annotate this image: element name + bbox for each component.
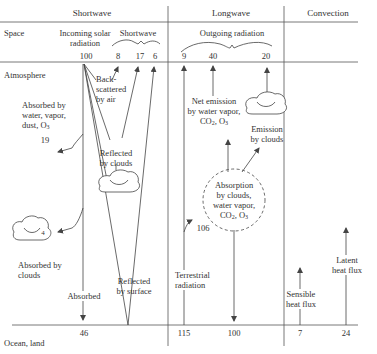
lw-out-surface-value: 9 [179,51,189,61]
surface-emitted-value: 115 [175,328,193,338]
absorbed-clouds-arrow [58,208,83,232]
reflected-surface-value: 6 [150,51,160,61]
backscatter-value: 8 [113,51,123,61]
section-convection: Convection [296,8,360,18]
terrestrial-label: Terrestrial radiation [175,270,210,290]
absorbed-wv-arrow [58,134,83,152]
latent-heat-value: 24 [338,328,354,338]
absorbed-terrestrial-arrow [184,220,192,232]
reflected-surface-label: Reflected by surface [112,276,156,296]
net-emission-label: Net emission by water vapor, CO2, O3 [186,96,242,128]
absorption-to-cloud-arrow [242,148,259,172]
section-longwave: Longwave [196,8,266,18]
longwave-cloud-icon [246,92,287,114]
sensible-heat-value: 7 [294,328,306,338]
absorbed-label: Absorbed [64,291,104,301]
row-space: Space [4,28,24,38]
absorbed-wv-value: 19 [38,135,52,145]
incoming-solar-label: Incoming solar radiation [52,28,118,48]
shortwave-outgoing-label: Shortwave [114,28,162,38]
shortwave-outgoing-brace [112,40,160,46]
absorbed-clouds-value: 4 [38,228,48,238]
absorbed-surface-value: 46 [76,328,92,338]
incoming-value: 100 [76,51,96,61]
absorbed-wv-label: Absorbed by water, vapor, dust, O3 [22,100,66,132]
absorbed-clouds-label: Absorbed by clouds [18,260,62,280]
emission-clouds-label: Emission by clouds [246,124,288,144]
lw-out-clouds-value: 20 [259,51,273,61]
reflected-clouds-value: 17 [134,51,146,61]
latent-heat-label: Latent heat flux [330,255,364,275]
sensible-heat-label: Sensible heat flux [285,289,317,309]
back-radiation-value: 100 [225,328,243,338]
earth-energy-budget-diagram: Shortwave Longwave Convection Space Atmo… [0,0,377,354]
row-surface: Ocean, land [4,338,45,348]
reflected-clouds-label: Reflected by clouds [94,148,138,168]
outgoing-radiation-label: Outgoing radiation [192,28,272,38]
row-atmosphere: Atmosphere [4,70,46,80]
lw-out-gas-value: 40 [206,51,220,61]
section-shortwave: Shortwave [52,8,132,18]
absorbed-terrestrial-value: 106 [194,223,212,233]
backscatter-label: Back- scattered by air [96,74,126,104]
absorption-label: Absorption by clouds, water vapor, CO2, … [208,180,260,222]
shortwave-cloud-icon [99,170,140,192]
